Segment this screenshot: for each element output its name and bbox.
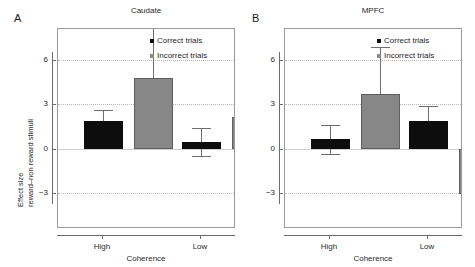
y-tick-3-a — [52, 104, 56, 105]
panel-letter-a: A — [14, 12, 22, 24]
gridline-6-a — [58, 60, 234, 61]
panel-caudate: A Caudate Effect size reward–non reward … — [0, 0, 238, 267]
panel-title-caudate: Caudate — [57, 6, 235, 15]
y-tick-6-b — [279, 60, 283, 61]
bar-incorrect-low-caudate[interactable] — [232, 117, 234, 149]
bar-correct-low-caudate[interactable] — [182, 142, 221, 149]
legend-item-correct-a[interactable]: Correct trials — [150, 36, 207, 45]
y-tick-label-0-a: 0 — [30, 144, 48, 153]
x-tick-label-low-b: Low — [407, 242, 447, 251]
x-axis-title-a: Coherence — [57, 254, 235, 263]
y-tick-label-3-a: 3 — [30, 99, 48, 108]
legend-label-incorrect: Incorrect trials — [157, 51, 207, 60]
y-tick-label-6-b: 6 — [257, 55, 275, 64]
y-tick-label-6-a: 6 — [30, 55, 48, 64]
legend-label-correct: Correct trials — [384, 36, 429, 45]
x-tick-label-high-a: High — [82, 242, 122, 251]
bar-incorrect-low-mpfc[interactable] — [459, 149, 461, 194]
bar-correct-low-mpfc[interactable] — [409, 121, 448, 149]
gridline-0-b — [285, 149, 461, 150]
legend-mpfc: Correct trials Incorrect trials — [377, 36, 434, 66]
error-cap-bottom-correct-high-b — [321, 154, 340, 155]
gridline-6-b — [285, 60, 461, 61]
legend-swatch-correct-icon — [150, 39, 154, 43]
gridline-0-a — [58, 149, 234, 150]
panel-mpfc: B MPFC 6 3 0 −3 — [238, 0, 475, 267]
plot-frame-mpfc: Correct trials Incorrect trials — [284, 28, 462, 228]
x-tick-label-low-a: Low — [180, 242, 220, 251]
error-cap-bottom-correct-low-a — [192, 156, 211, 157]
y-tick-label-n3-b: −3 — [255, 188, 275, 197]
x-tick-high-b — [329, 235, 330, 239]
bar-incorrect-high-caudate[interactable] — [134, 78, 173, 149]
legend-item-correct-b[interactable]: Correct trials — [377, 36, 434, 45]
panel-title-mpfc: MPFC — [284, 6, 462, 15]
y-axis-line-a — [52, 52, 53, 204]
legend-swatch-incorrect-icon — [150, 54, 154, 58]
error-cap-top-correct-low-a — [192, 128, 211, 129]
y-axis-line-b — [279, 52, 280, 204]
y-tick-6-a — [52, 60, 56, 61]
y-tick-label-0-b: 0 — [257, 144, 275, 153]
plot-area-caudate: Correct trials Incorrect trials — [58, 29, 234, 227]
panel-letter-b: B — [252, 12, 260, 24]
error-cap-top-correct-high-b — [321, 125, 340, 126]
legend-item-incorrect-a[interactable]: Incorrect trials — [150, 51, 207, 60]
legend-item-incorrect-b[interactable]: Incorrect trials — [377, 51, 434, 60]
x-axis-title-b: Coherence — [284, 254, 462, 263]
error-cap-top-correct-high-a — [94, 110, 113, 111]
bar-incorrect-high-mpfc[interactable] — [361, 94, 400, 149]
legend-swatch-incorrect-icon — [377, 54, 381, 58]
x-axis-line-b — [284, 235, 462, 236]
plot-area-mpfc: Correct trials Incorrect trials — [285, 29, 461, 227]
legend-swatch-correct-icon — [377, 39, 381, 43]
error-cap-top-correct-low-b — [419, 106, 438, 107]
legend-caudate: Correct trials Incorrect trials — [150, 36, 207, 66]
x-tick-low-a — [200, 235, 201, 239]
bar-correct-high-mpfc[interactable] — [311, 139, 350, 149]
bar-correct-high-caudate[interactable] — [84, 121, 123, 149]
y-tick-3-b — [279, 104, 283, 105]
x-axis-line-a — [57, 235, 235, 236]
y-tick-label-n3-a: −3 — [28, 188, 48, 197]
y-tick-label-3-b: 3 — [257, 99, 275, 108]
y-axis-title-line1: Effect size — [16, 173, 25, 207]
y-tick-n3-b — [279, 193, 283, 194]
x-tick-low-b — [427, 235, 428, 239]
x-tick-label-high-b: High — [309, 242, 349, 251]
plot-frame-caudate: Correct trials Incorrect trials — [57, 28, 235, 228]
figure-root: A Caudate Effect size reward–non reward … — [0, 0, 475, 267]
y-tick-0-a — [52, 149, 56, 150]
y-tick-0-b — [279, 149, 283, 150]
y-tick-n3-a — [52, 193, 56, 194]
x-tick-high-a — [102, 235, 103, 239]
legend-label-correct: Correct trials — [157, 36, 202, 45]
legend-label-incorrect: Incorrect trials — [384, 51, 434, 60]
gridline-n3-a — [58, 193, 234, 194]
gridline-n3-b — [285, 193, 461, 194]
